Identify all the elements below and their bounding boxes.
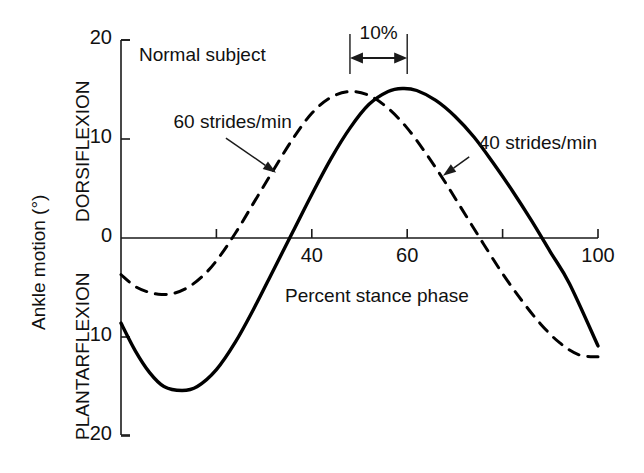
y-axis-label: Ankle motion (°) bbox=[28, 195, 50, 330]
tick-label: 60 bbox=[396, 244, 418, 267]
series-callout-arrows bbox=[226, 138, 469, 176]
chart-plot-area bbox=[0, 0, 644, 473]
tick-label: 10 bbox=[90, 323, 112, 346]
series-label-40-strides: 40 strides/min bbox=[479, 132, 597, 154]
tick-label: 10 bbox=[90, 125, 112, 148]
series-label-60-strides: 60 strides/min bbox=[173, 111, 291, 133]
ankle-motion-chart-figure: Normal subject Percent stance phase Ankl… bbox=[0, 0, 644, 473]
axis-lines bbox=[121, 40, 598, 436]
span-annotation-label: 10% bbox=[360, 22, 398, 44]
y-axis-label-plantarflexion: PLANTARFLEXION bbox=[72, 272, 94, 440]
y-axis-label-dorsiflexion: DORSIFLEXION bbox=[72, 81, 94, 222]
tick-label: 100 bbox=[581, 244, 614, 267]
tick-label: 40 bbox=[301, 244, 323, 267]
tick-label: 0 bbox=[101, 224, 112, 247]
callout-arrow-60-strides bbox=[226, 138, 276, 173]
tick-label: 20 bbox=[90, 26, 112, 49]
callout-arrow-40-strides bbox=[443, 157, 469, 176]
x-axis-label: Percent stance phase bbox=[285, 285, 469, 307]
tick-label: 20 bbox=[90, 422, 112, 445]
normal-subject-annotation: Normal subject bbox=[139, 44, 266, 66]
